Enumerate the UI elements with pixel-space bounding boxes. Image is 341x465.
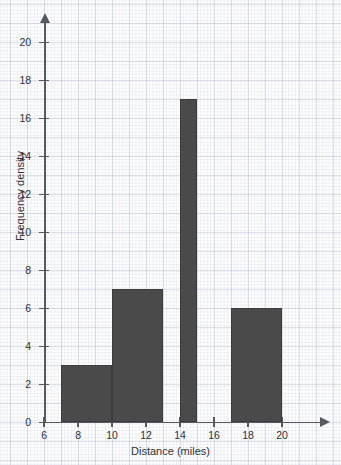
y-tick-4 — [39, 346, 49, 347]
y-tick-16 — [39, 118, 49, 119]
y-tick-2 — [39, 384, 49, 385]
x-tick-16 — [213, 417, 214, 427]
y-tick-10 — [39, 232, 49, 233]
bar-14-15 — [180, 99, 197, 422]
y-tick-6 — [39, 308, 49, 309]
x-tick-label-10: 10 — [97, 429, 127, 441]
bar-7-10 — [61, 365, 112, 422]
y-tick-label-6: 6 — [0, 302, 31, 314]
y-tick-label-18: 18 — [0, 74, 31, 86]
x-tick-label-12: 12 — [131, 429, 161, 441]
x-tick-label-20: 20 — [267, 429, 297, 441]
x-tick-label-18: 18 — [233, 429, 263, 441]
bar-10-13 — [112, 289, 163, 422]
y-tick-14 — [39, 156, 49, 157]
x-tick-label-16: 16 — [199, 429, 229, 441]
x-axis-arrow-icon — [320, 417, 330, 427]
y-axis-arrow-icon — [40, 13, 50, 23]
y-tick-12 — [39, 194, 49, 195]
y-axis-line — [44, 22, 46, 423]
x-axis-title: Distance (miles) — [0, 445, 341, 457]
y-axis-title: Frequency density — [14, 96, 26, 296]
bar-17-20 — [231, 308, 282, 422]
histogram-chart: 0 2 4 6 8 10 12 14 16 18 20 6 8 10 12 14… — [0, 0, 341, 465]
y-tick-label-20: 20 — [0, 36, 31, 48]
y-tick-label-2: 2 — [0, 378, 31, 390]
x-tick-label-14: 14 — [165, 429, 195, 441]
y-tick-20 — [39, 42, 49, 43]
y-tick-label-0: 0 — [0, 416, 31, 428]
y-tick-8 — [39, 270, 49, 271]
y-tick-label-4: 4 — [0, 340, 31, 352]
x-tick-label-8: 8 — [63, 429, 93, 441]
plot-area: 0 2 4 6 8 10 12 14 16 18 20 6 8 10 12 14… — [0, 0, 341, 465]
x-tick-6 — [43, 417, 44, 427]
x-tick-label-6: 6 — [29, 429, 59, 441]
y-tick-18 — [39, 80, 49, 81]
